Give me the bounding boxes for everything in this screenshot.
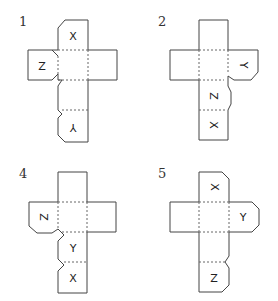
face-label: Y	[69, 242, 77, 255]
net-1: X Z Y	[28, 20, 117, 142]
face-label: Z	[37, 213, 50, 221]
face-label: X	[207, 121, 220, 129]
face-label: Y	[69, 121, 77, 134]
face-label: X	[69, 30, 77, 43]
net-2: Y Z X	[170, 20, 258, 140]
net-5: X Y Z	[170, 172, 259, 292]
face-label: X	[208, 183, 221, 191]
face-label: Z	[210, 272, 218, 285]
face-label: X	[69, 272, 77, 285]
net-4: Z Y X	[29, 172, 116, 293]
cube-nets-diagram: X Z Y Y Z X Z Y X X Y Z	[0, 0, 278, 301]
face-label: Z	[207, 92, 220, 100]
face-label: Y	[239, 211, 247, 224]
face-label: Y	[237, 61, 250, 69]
face-label: Z	[38, 60, 46, 73]
